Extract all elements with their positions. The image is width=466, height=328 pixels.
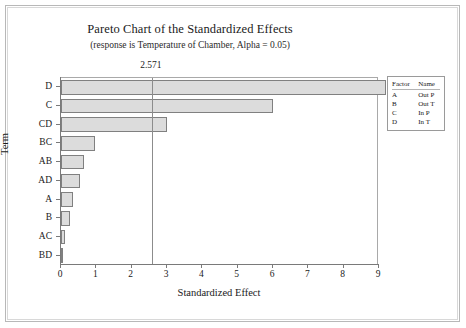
legend-row: DIn T [392,117,440,126]
bar-ab [61,155,84,170]
legend-row: AOut P [392,90,440,100]
legend-row: CIn P [392,108,440,117]
bar-ad [61,174,80,189]
x-tick-label-3: 3 [164,269,169,279]
y-tick-label-b: B [0,212,52,222]
y-tick-bd [56,255,60,256]
bar-d [61,80,386,95]
x-tick-label-1: 1 [93,269,98,279]
legend-table: Factor Name AOut PBOut TCIn PDIn T [392,80,440,126]
y-tick-label-ab: AB [0,156,52,166]
bar-a [61,192,73,207]
x-tick-label-5: 5 [234,269,239,279]
chart-subtitle: (response is Temperature of Chamber, Alp… [0,40,380,50]
legend-factor-b: B [392,99,414,108]
y-tick-label-cd: CD [0,119,52,129]
x-tick-label-0: 0 [58,269,63,279]
x-tick-1 [95,264,96,268]
legend-body: AOut PBOut TCIn PDIn T [392,90,440,127]
y-axis-line [60,77,61,264]
x-tick-2 [131,264,132,268]
significance-reference-line [152,78,153,264]
y-tick-ac [56,236,60,237]
x-tick-label-9: 9 [376,269,381,279]
legend-name-c: In P [414,108,440,117]
bar-bc [61,136,95,151]
legend-factor-d: D [392,117,414,126]
legend-header-factor: Factor [392,80,414,90]
legend-name-d: In T [414,117,440,126]
bar-ac [61,230,65,245]
legend-row: BOut T [392,99,440,108]
x-tick-9 [378,264,379,268]
chart-title: Pareto Chart of the Standardized Effects [0,22,380,37]
reference-line-label: 2.571 [140,60,161,70]
x-tick-8 [343,264,344,268]
y-tick-cd [56,124,60,125]
bar-c [61,99,273,114]
legend-header-row: Factor Name [392,80,440,90]
pareto-chart-figure: Pareto Chart of the Standardized Effects… [0,0,466,328]
y-tick-label-a: A [0,194,52,204]
x-tick-label-7: 7 [305,269,310,279]
y-tick-label-ad: AD [0,175,52,185]
bar-bd [61,248,63,263]
x-tick-3 [166,264,167,268]
y-tick-label-c: C [0,100,52,110]
y-tick-ad [56,180,60,181]
x-tick-label-8: 8 [340,269,345,279]
y-tick-label-bd: BD [0,250,52,260]
legend-factor-a: A [392,90,414,100]
y-tick-ab [56,161,60,162]
x-axis-line [60,264,378,265]
y-tick-bc [56,142,60,143]
y-tick-label-d: D [0,81,52,91]
x-tick-4 [201,264,202,268]
plot-area [60,77,378,264]
x-axis-title: Standardized Effect [60,287,378,298]
y-tick-a [56,199,60,200]
y-axis-title: Term [0,133,10,155]
legend-name-b: Out T [414,99,440,108]
factor-legend: Factor Name AOut PBOut TCIn PDIn T [387,76,445,131]
x-tick-6 [272,264,273,268]
x-tick-label-6: 6 [270,269,275,279]
legend-name-a: Out P [414,90,440,100]
x-tick-7 [307,264,308,268]
y-tick-d [56,86,60,87]
legend-factor-c: C [392,108,414,117]
x-tick-0 [60,264,61,268]
x-tick-label-4: 4 [199,269,204,279]
y-tick-b [56,217,60,218]
x-tick-label-2: 2 [128,269,133,279]
y-tick-c [56,105,60,106]
legend-header-name: Name [414,80,440,90]
x-tick-5 [237,264,238,268]
y-tick-label-ac: AC [0,231,52,241]
bars-layer [61,78,377,264]
bar-b [61,211,70,226]
